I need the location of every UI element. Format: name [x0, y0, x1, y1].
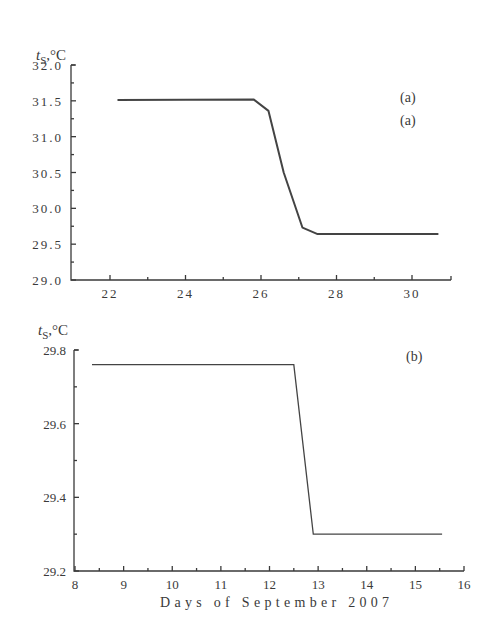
panel-a-axes: 29.029.530.030.531.031.532.02224262830	[32, 58, 451, 301]
x-tick-label: 24	[177, 286, 194, 301]
panel-a: tS,°C (a) (a) 29.029.530.030.531.031.532…	[32, 47, 451, 301]
x-tick-label: 14	[360, 577, 374, 592]
axis-lines	[71, 65, 451, 280]
panel-b-ylabel: tS,°C	[38, 322, 68, 341]
y-tick-label: 29.0	[32, 273, 63, 288]
panel-b: tS,°C (b) 29.229.429.629.889101112131415…	[38, 322, 471, 610]
y-tick-label: 30.5	[32, 166, 63, 181]
panel-b-tag: (b)	[406, 349, 423, 365]
panel-b-axes: 29.229.429.629.88910111213141516	[43, 343, 471, 592]
x-tick-label: 15	[409, 577, 422, 592]
x-tick-label: 10	[166, 577, 179, 592]
panel-a-tag: (a)	[400, 90, 416, 106]
y-tick-label: 32.0	[32, 58, 63, 73]
y-tick-label: 29.5	[32, 237, 63, 252]
y-tick-label: 29.2	[43, 564, 66, 579]
x-tick-label: 11	[215, 577, 228, 592]
x-tick-label: 22	[102, 286, 119, 301]
x-tick-label: 13	[312, 577, 325, 592]
figure: tS,°C (a) (a) 29.029.530.030.531.031.532…	[0, 0, 498, 641]
panel-b-line	[92, 365, 442, 535]
y-tick-label: 31.5	[32, 94, 63, 109]
y-tick-label: 30.0	[32, 201, 63, 216]
panel-a-tag-duplicate: (a)	[400, 113, 416, 129]
x-axis-label: Days of September 2007	[160, 595, 393, 610]
y-tick-label: 29.6	[43, 417, 66, 432]
y-tick-label: 29.8	[43, 343, 66, 358]
x-tick-label: 16	[458, 577, 472, 592]
axis-lines	[74, 350, 464, 571]
y-tick-label: 31.0	[32, 130, 63, 145]
x-tick-label: 30	[404, 286, 421, 301]
x-tick-label: 9	[120, 577, 127, 592]
x-tick-label: 26	[253, 286, 270, 301]
y-tick-label: 29.4	[43, 490, 66, 505]
x-tick-label: 8	[72, 577, 79, 592]
x-tick-label: 12	[263, 577, 276, 592]
x-tick-label: 28	[328, 286, 345, 301]
panel-a-line	[118, 99, 439, 234]
